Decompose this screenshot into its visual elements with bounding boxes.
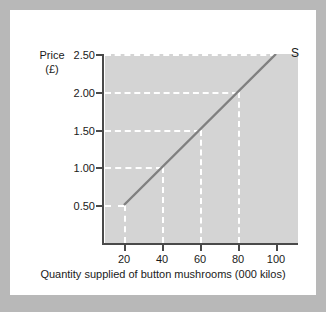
x-tick-mark — [200, 245, 202, 251]
y-tick-label-1.00: 1.00 — [74, 162, 95, 174]
plot-area — [105, 54, 298, 243]
y-tick-label-2.50: 2.50 — [74, 49, 95, 61]
x-tick-label-80: 80 — [232, 253, 244, 265]
x-tick-mark — [162, 245, 164, 251]
x-tick-label-100: 100 — [267, 253, 285, 265]
y-axis-title-line-1: Price — [28, 48, 76, 62]
y-tick-label-2.00: 2.00 — [74, 87, 95, 99]
x-tick-mark — [276, 245, 278, 251]
y-tick-label-0.50: 0.50 — [74, 200, 95, 212]
plot-frame: 2.50 2.00 1.50 1.00 0.50 20 40 60 — [102, 54, 298, 246]
y-axis-title-line-2: (£) — [28, 62, 76, 76]
x-tick-mark — [238, 245, 240, 251]
supply-curve — [105, 54, 298, 243]
supply-curve-label: S — [291, 46, 299, 60]
figure-card: Price (£) 2.50 2.0 — [10, 10, 316, 295]
y-tick-label-1.50: 1.50 — [74, 125, 95, 137]
x-axis-title: Quantity supplied of button mushrooms (0… — [10, 268, 316, 280]
y-axis-title: Price (£) — [28, 48, 76, 76]
y-tick-mark — [96, 130, 103, 132]
y-axis-line — [102, 54, 104, 245]
y-tick-mark — [96, 92, 103, 94]
x-tick-label-60: 60 — [194, 253, 206, 265]
x-tick-label-40: 40 — [156, 253, 168, 265]
y-tick-mark — [96, 205, 103, 207]
x-tick-label-20: 20 — [118, 253, 130, 265]
y-tick-mark — [96, 54, 103, 56]
y-tick-mark — [96, 167, 103, 169]
x-tick-mark — [124, 245, 126, 251]
